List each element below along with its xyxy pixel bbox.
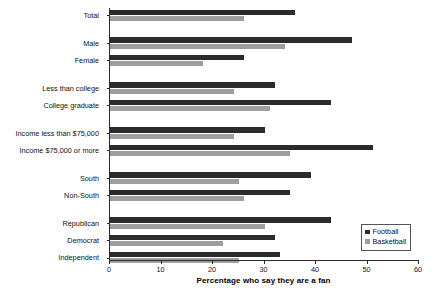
bar-football xyxy=(110,217,331,223)
x-axis-tick xyxy=(264,260,265,264)
y-axis-category-label: Independent xyxy=(58,254,99,262)
bar-basketball xyxy=(110,196,244,202)
y-axis-tick xyxy=(107,195,110,196)
x-axis-tick xyxy=(367,260,368,264)
bar-basketball xyxy=(110,224,265,230)
x-axis-tick-label: 20 xyxy=(200,265,224,274)
bar-basketball xyxy=(110,106,270,112)
bar-football xyxy=(110,127,265,133)
x-axis-tick xyxy=(109,260,110,264)
x-axis-tick xyxy=(161,260,162,264)
x-axis-title: Percentage who say they are a fan xyxy=(109,276,418,285)
y-axis-tick xyxy=(107,88,110,89)
bar-basketball xyxy=(110,44,285,50)
bar-football xyxy=(110,82,275,88)
bar-football xyxy=(110,55,244,61)
bar-basketball xyxy=(110,151,290,157)
y-axis-category-label: College graduate xyxy=(43,102,99,110)
bar-basketball xyxy=(110,179,239,185)
bar-football xyxy=(110,172,311,178)
bar-football xyxy=(110,10,295,16)
y-axis-category-label: Non-South xyxy=(64,192,99,200)
bar-basketball xyxy=(110,134,234,140)
legend-label-football: Football xyxy=(373,228,399,236)
bar-football xyxy=(110,100,331,106)
bar-chart: TotalMaleFemaleLess than collegeCollege … xyxy=(0,0,437,292)
y-axis-category-label: Republican xyxy=(62,220,99,228)
y-axis-tick xyxy=(107,15,110,16)
x-axis-tick-label: 0 xyxy=(97,265,121,274)
y-axis-category-label: Democrat xyxy=(67,237,99,245)
bar-basketball xyxy=(110,241,223,247)
legend-swatch-football-icon xyxy=(365,230,370,235)
y-axis-category-label: Income less than $75,000 xyxy=(15,130,99,138)
y-axis-tick xyxy=(107,240,110,241)
bar-football xyxy=(110,235,275,241)
plot-area xyxy=(109,8,419,260)
y-axis-tick xyxy=(107,178,110,179)
bar-basketball xyxy=(110,61,203,67)
x-axis-tick-label: 30 xyxy=(252,265,276,274)
bar-football xyxy=(110,145,373,151)
legend-item-basketball: Basketball xyxy=(365,237,406,246)
y-axis-category-label: Total xyxy=(84,12,99,20)
legend-item-football: Football xyxy=(365,228,406,237)
y-axis-tick xyxy=(107,223,110,224)
y-axis-tick xyxy=(107,150,110,151)
y-axis-tick xyxy=(107,105,110,106)
bar-football xyxy=(110,37,352,43)
x-axis-tick-label: 10 xyxy=(149,265,173,274)
x-axis-tick-label: 60 xyxy=(406,265,430,274)
x-axis-tick-label: 50 xyxy=(355,265,379,274)
y-axis-tick xyxy=(107,258,110,259)
bar-basketball xyxy=(110,16,244,22)
bar-basketball xyxy=(110,89,234,95)
legend-swatch-basketball-icon xyxy=(365,239,370,244)
y-axis-category-label: Less than college xyxy=(42,85,99,93)
y-axis-category-labels: TotalMaleFemaleLess than collegeCollege … xyxy=(0,8,103,260)
x-axis-tick xyxy=(418,260,419,264)
x-axis-tick-label: 40 xyxy=(303,265,327,274)
legend-label-basketball: Basketball xyxy=(373,238,407,246)
y-axis-category-label: South xyxy=(80,175,99,183)
y-axis-tick xyxy=(107,133,110,134)
x-axis-tick xyxy=(212,260,213,264)
bar-football xyxy=(110,252,280,258)
x-axis-tick xyxy=(315,260,316,264)
y-axis-tick xyxy=(107,43,110,44)
y-axis-category-label: Income $75,000 or more xyxy=(20,147,100,155)
y-axis-category-label: Male xyxy=(83,40,99,48)
y-axis-tick xyxy=(107,60,110,61)
y-axis-category-label: Female xyxy=(75,57,99,65)
bar-football xyxy=(110,190,290,196)
chart-legend: Football Basketball xyxy=(361,224,411,251)
